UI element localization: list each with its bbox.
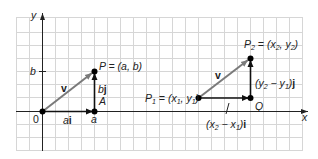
- right-vector-v-label: v: [215, 69, 221, 81]
- horizontal-component-pointer: [226, 103, 229, 114]
- point-P2-label: P2 = (x2, y2): [244, 38, 298, 51]
- left-component-ai-label: ai: [63, 114, 72, 126]
- vector-diagram: y x 0 b a v P = (a, b) A ai bj v P1 = (x…: [0, 0, 318, 159]
- point-A: [92, 109, 98, 115]
- left-vector-v-label: v: [61, 82, 67, 94]
- right-vertical-component-label: (y2 − y1)j: [255, 77, 295, 90]
- x-axis-label: x: [301, 111, 308, 123]
- point-P: [92, 69, 98, 75]
- right-vector-v: [199, 60, 249, 98]
- tick-a-label: a: [91, 113, 97, 125]
- left-component-bj-label: bj: [98, 83, 107, 95]
- point-P1-label: P1 = (x1, y1): [145, 92, 199, 105]
- tick-b-label: b: [30, 65, 36, 77]
- y-axis-label: y: [30, 9, 37, 21]
- origin-point: [40, 109, 46, 115]
- left-vector-v: [43, 73, 93, 112]
- point-Q-label: Q: [255, 100, 263, 112]
- origin-label: 0: [33, 113, 39, 125]
- right-horizontal-component-label: (x2 − x1)i: [206, 118, 246, 131]
- point-P-label: P = (a, b): [99, 60, 142, 72]
- point-P2: [248, 56, 254, 62]
- point-A-label: A: [98, 95, 106, 107]
- point-Q: [248, 95, 254, 101]
